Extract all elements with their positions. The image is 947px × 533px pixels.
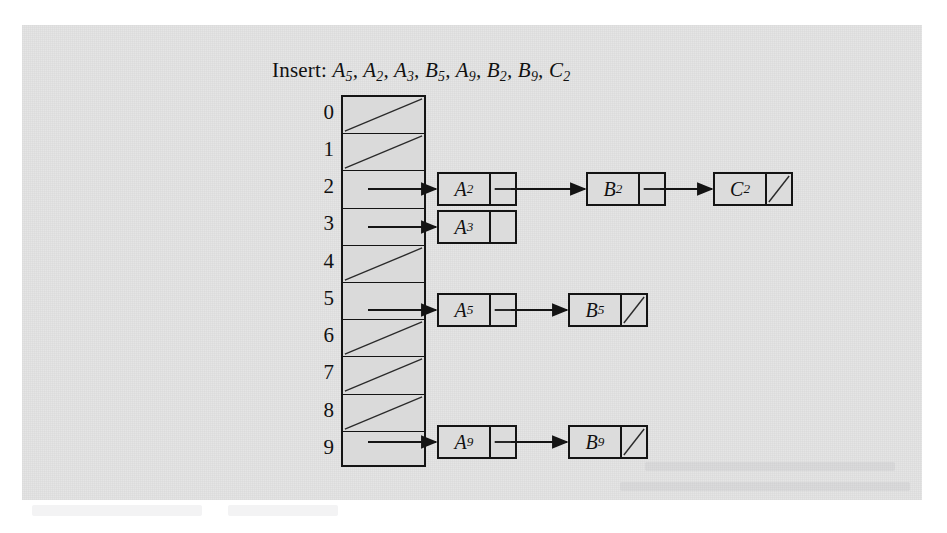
- node-key-label: A9: [439, 427, 491, 457]
- bucket-slot-8[interactable]: [343, 395, 424, 432]
- node-key-label: A3: [439, 212, 491, 242]
- node-key-label: B9: [570, 427, 622, 457]
- pointer-stub-icon: [491, 174, 515, 204]
- bucket-index-1: 1: [300, 137, 334, 162]
- node-next-pointer: [491, 427, 515, 457]
- insert-sequence-caption: Insert: A5, A2, A3, B5, A9, B2, B9, C2: [272, 58, 570, 83]
- node-key-label: A2: [439, 174, 491, 204]
- bucket-index-0: 0: [300, 100, 334, 125]
- list-node-C2[interactable]: C2: [713, 172, 793, 206]
- bucket-slot-6[interactable]: [343, 320, 424, 357]
- bleedthrough-artifact: [32, 505, 202, 516]
- null-slash-icon: [343, 320, 424, 356]
- bucket-slot-1[interactable]: [343, 134, 424, 171]
- node-next-null: [622, 427, 646, 457]
- bucket-index-6: 6: [300, 323, 334, 348]
- caption-items: A5, A2, A3, B5, A9, B2, B9, C2: [333, 58, 571, 82]
- bucket-index-5: 5: [300, 286, 334, 311]
- node-next-pointer: [640, 174, 664, 204]
- node-next-pointer: [491, 174, 515, 204]
- null-slash-icon: [343, 357, 424, 393]
- bucket-index-4: 4: [300, 249, 334, 274]
- bucket-slot-4[interactable]: [343, 246, 424, 283]
- null-slash-icon: [343, 134, 424, 170]
- null-slash-icon: [343, 246, 424, 282]
- bucket-slot-0[interactable]: [343, 97, 424, 134]
- caption-prefix: Insert:: [272, 58, 327, 82]
- list-node-A5[interactable]: A5: [437, 293, 517, 327]
- node-key-label: B2: [588, 174, 640, 204]
- list-node-A3[interactable]: A3: [437, 210, 517, 244]
- bucket-index-7: 7: [300, 360, 334, 385]
- null-slash-icon: [343, 395, 424, 431]
- hash-table-array: [341, 95, 426, 467]
- null-slash-icon: [622, 295, 646, 325]
- node-next-null: [767, 174, 791, 204]
- bleedthrough-artifact: [228, 505, 338, 516]
- bucket-index-3: 3: [300, 211, 334, 236]
- bucket-slot-5[interactable]: [343, 283, 424, 320]
- pointer-stub-icon: [640, 174, 664, 204]
- node-key-label: A5: [439, 295, 491, 325]
- bucket-slot-7[interactable]: [343, 357, 424, 394]
- pointer-stub-icon: [491, 427, 515, 457]
- hash-table-chaining-figure: Insert: A5, A2, A3, B5, A9, B2, B9, C2 0…: [0, 0, 947, 533]
- pointer-stub-icon: [491, 295, 515, 325]
- null-slash-icon: [622, 427, 646, 457]
- bucket-slot-9[interactable]: [343, 432, 424, 469]
- bucket-index-8: 8: [300, 398, 334, 423]
- node-next-empty: [491, 212, 515, 242]
- list-node-B9[interactable]: B9: [568, 425, 648, 459]
- list-node-A9[interactable]: A9: [437, 425, 517, 459]
- node-next-pointer: [491, 295, 515, 325]
- bucket-slot-2[interactable]: [343, 171, 424, 208]
- node-key-label: C2: [715, 174, 767, 204]
- list-node-A2[interactable]: A2: [437, 172, 517, 206]
- list-node-B2[interactable]: B2: [586, 172, 666, 206]
- bucket-slot-3[interactable]: [343, 209, 424, 246]
- null-slash-icon: [767, 174, 791, 204]
- null-slash-icon: [343, 97, 424, 133]
- list-node-B5[interactable]: B5: [568, 293, 648, 327]
- bucket-index-9: 9: [300, 435, 334, 460]
- node-key-label: B5: [570, 295, 622, 325]
- node-next-null: [622, 295, 646, 325]
- bucket-index-2: 2: [300, 174, 334, 199]
